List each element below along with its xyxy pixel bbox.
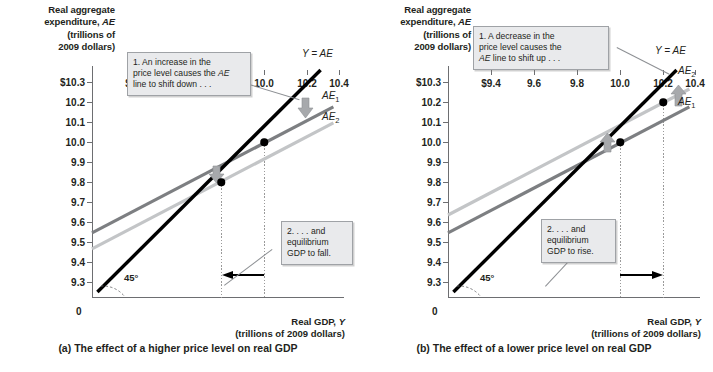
- angle-arc-a: [101, 286, 125, 297]
- y-tick-label-10-1-b: 10.1: [422, 117, 441, 128]
- callout-2-a: 2. . . . and equilibrium GDP to fall.: [281, 221, 353, 265]
- callout1-line1-a: 1. An increase in the: [133, 57, 211, 67]
- y-tick-label-9-5-a: 9.5: [71, 237, 85, 248]
- equilibrium-dot-10-0-a: [260, 138, 268, 146]
- y-tick-label-9-5-b: 9.5: [427, 237, 441, 248]
- y-tick-label-10-3-a: $10.3: [60, 77, 85, 88]
- equilibrium-dot-10-2-b: [659, 98, 667, 106]
- plot-area-b: $10.3 10.2 10.1 10.0 9.9 9.8 9.7 9.6 9.5…: [448, 70, 696, 298]
- angle-label-a: 45°: [124, 272, 138, 283]
- callout2-line2-a: equilibrium: [287, 237, 329, 247]
- x-axis-title-a: Real GDP, Y (trillions of 2009 dollars): [150, 316, 345, 341]
- panel-a-caption: (a) The effect of a higher price level o…: [0, 342, 356, 354]
- y-tick-label-10-0-b: 10.0: [422, 137, 441, 148]
- callout2-line1-b: 2. . . . and: [547, 224, 585, 234]
- y-tick-label-9-6-b: 9.6: [427, 217, 441, 228]
- y-tick-label-10-2-a: 10.2: [66, 97, 85, 108]
- y-axis-title-line3-b: (trillions of: [423, 29, 471, 40]
- equilibrium-dot-9-8-a: [217, 178, 225, 186]
- ae2-line-label-b: AE2: [678, 65, 696, 79]
- y-axis-title-a: Real aggregate expenditure, AE (trillion…: [10, 4, 115, 54]
- identity-line-label-b: Y = AE: [655, 45, 686, 56]
- x-axis-title-line1-b: Real GDP,: [647, 316, 694, 327]
- y-tick-label-9-4-b: 9.4: [427, 257, 441, 268]
- y-axis-title-line4: 2009 dollars): [58, 41, 115, 52]
- ae1-line-label-a: AE1: [322, 90, 340, 104]
- y-tick-label-9-9-b: 9.9: [427, 157, 441, 168]
- panel-b: Real aggregate expenditure, AE (trillion…: [356, 0, 712, 372]
- panel-b-caption: (b) The effect of a lower price level on…: [356, 342, 712, 354]
- callout1-ae-a: AE: [218, 68, 229, 78]
- callout1-line3-a: line to shift down . . .: [133, 79, 211, 89]
- ae1-line-label-b: AE1: [678, 96, 696, 110]
- ae1-line-b: [448, 107, 689, 233]
- gdp-rise-arrow-b: [620, 271, 663, 279]
- ae2-line-b: [448, 89, 689, 215]
- callout1-ae-b: AE: [479, 53, 490, 63]
- y-tick-label-10-0-a: 10.0: [66, 137, 85, 148]
- callout-1-b: 1. A decrease in the price level causes …: [473, 26, 609, 70]
- aggregate-expenditure-figure: Real aggregate expenditure, AE (trillion…: [0, 0, 713, 372]
- shift-arrow-right-a: [298, 98, 313, 118]
- y-tick-label-10-1-a: 10.1: [66, 117, 85, 128]
- y-axis-title-line3: (trillions of: [67, 29, 115, 40]
- origin-label-b: 0: [432, 306, 438, 317]
- y-axis-title-line2: expenditure,: [44, 16, 102, 27]
- x-axis-title-y-b: Y: [695, 316, 701, 327]
- ae2-line-label-a: AE2: [322, 111, 340, 125]
- callout1-line2-a: price level causes the: [133, 68, 218, 78]
- y-axis-title-b: Real aggregate expenditure, AE (trillion…: [366, 4, 471, 54]
- y-tick-label-9-3-b: 9.3: [427, 277, 441, 288]
- y-tick-label-9-7-a: 9.7: [71, 197, 85, 208]
- callout2-line2-b: equilibrium: [547, 235, 589, 245]
- x-axis-title-line1-a: Real GDP,: [291, 316, 338, 327]
- equilibrium-dot-10-0-b: [616, 138, 624, 146]
- callout1-line1-b: 1. A decrease in the: [479, 31, 555, 41]
- callout1-line3-b: line to shift up . . .: [490, 53, 560, 63]
- callout2-line3-b: GDP to rise.: [547, 246, 594, 256]
- panel-a: Real aggregate expenditure, AE (trillion…: [0, 0, 356, 372]
- y-axis-title-ae-b: AE: [458, 16, 471, 27]
- x-axis-title-b: Real GDP, Y (trillions of 2009 dollars): [506, 316, 701, 341]
- y-tick-label-9-3-a: 9.3: [71, 277, 85, 288]
- x-axis-title-line2-b: (trillions of 2009 dollars): [591, 328, 701, 339]
- angle-label-b: 45°: [480, 272, 494, 283]
- y-tick-label-9-7-b: 9.7: [427, 197, 441, 208]
- y-tick-label-9-4-a: 9.4: [71, 257, 85, 268]
- callout2-line3-a: GDP to fall.: [287, 248, 331, 258]
- y-axis-title-line1-b: Real aggregate: [404, 4, 471, 15]
- identity-line-label-a: Y = AE: [302, 48, 333, 59]
- callout2-line1-a: 2. . . . and: [287, 226, 325, 236]
- y-axis-title-ae: AE: [102, 16, 115, 27]
- y-axis-title-line4-b: 2009 dollars): [414, 41, 471, 52]
- angle-arc-b: [457, 286, 481, 297]
- y-tick-label-10-3-b: $10.3: [416, 77, 441, 88]
- y-axis-title-line1: Real aggregate: [48, 4, 115, 15]
- y-tick-label-10-2-b: 10.2: [422, 97, 441, 108]
- origin-label-a: 0: [76, 306, 82, 317]
- y-tick-label-9-8-b: 9.8: [427, 177, 441, 188]
- y-axis-title-line2-b: expenditure,: [400, 16, 458, 27]
- y-tick-label-9-8-a: 9.8: [71, 177, 85, 188]
- callout1-line2-b: price level causes the: [479, 42, 562, 52]
- x-axis-title-y-a: Y: [339, 316, 345, 327]
- x-axis-title-line2-a: (trillions of 2009 dollars): [235, 328, 345, 339]
- y-tick-label-9-9-a: 9.9: [71, 157, 85, 168]
- gdp-fall-arrow-a: [222, 271, 264, 279]
- callout-2-b: 2. . . . and equilibrium GDP to rise.: [541, 219, 616, 263]
- y-tick-label-9-6-a: 9.6: [71, 217, 85, 228]
- callout-1-a: 1. An increase in the price level causes…: [127, 52, 251, 96]
